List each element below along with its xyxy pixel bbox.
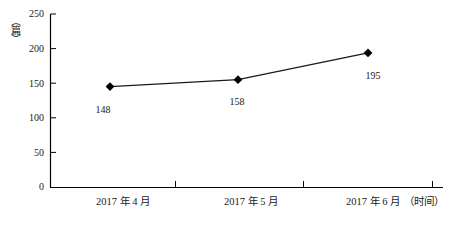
data-point-label-2: 158 — [212, 96, 262, 107]
data-point-marker-2 — [234, 75, 243, 84]
data-point-label-1: 148 — [78, 104, 128, 115]
x-axis-unit-label: （时间） — [404, 196, 444, 208]
line-chart: （篇） 250 200 150 100 50 0 148 158 195 201… — [0, 0, 453, 231]
data-point-label-3: 195 — [348, 70, 398, 81]
x-axis-label-apr: 2017 年 4 月 — [68, 196, 178, 208]
data-point-marker-1 — [106, 82, 115, 91]
data-point-marker-3 — [364, 49, 373, 58]
x-axis-label-may: 2017 年 5 月 — [196, 196, 306, 208]
